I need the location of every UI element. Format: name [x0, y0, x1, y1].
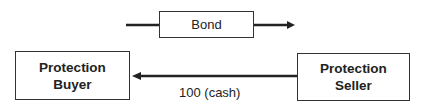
buyer-label-line1: Protection	[39, 59, 106, 76]
bond-box: Bond	[159, 11, 254, 38]
bond-label: Bond	[191, 17, 221, 32]
cash-flow-label: 100 (cash)	[179, 85, 240, 100]
seller-label-line2: Seller	[320, 77, 387, 94]
buyer-label-line2: Buyer	[39, 76, 106, 93]
protection-buyer-box: Protection Buyer	[15, 51, 130, 100]
seller-label-line1: Protection	[320, 60, 387, 77]
cash-flow-arrow	[132, 72, 297, 80]
diagram-canvas: Bond Protection Buyer Protection Seller …	[0, 0, 422, 106]
protection-seller-box: Protection Seller	[297, 53, 410, 101]
